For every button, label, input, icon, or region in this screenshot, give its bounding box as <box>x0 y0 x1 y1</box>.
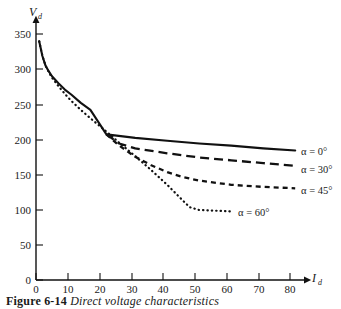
figure-caption: Figure 6-14 Direct voltage characteristi… <box>6 294 219 309</box>
y-tick-label: 250 <box>15 99 32 111</box>
y-tick-label: 50 <box>20 239 32 251</box>
series-line-alpha-45 <box>106 134 295 188</box>
y-axis-title: V d <box>29 5 43 21</box>
series-line-alpha-0 <box>39 41 295 150</box>
legend: α = 0° α = 30° α = 45° α = 60° <box>238 146 332 218</box>
y-axis-title-subscript: d <box>38 12 43 21</box>
y-axis-tick-labels: 0 50 100 150 200 250 300 350 <box>15 28 32 286</box>
axis-lines <box>36 22 305 280</box>
x-axis-title: I d <box>311 271 323 287</box>
x-tick-label: 80 <box>285 283 297 295</box>
y-tick-label: 0 <box>26 274 32 286</box>
x-axis-title-subscript: d <box>318 278 323 287</box>
series-lines <box>39 41 295 211</box>
series-line-alpha-30 <box>106 134 295 166</box>
y-tick-label: 300 <box>15 63 32 75</box>
legend-label-alpha-0: α = 0° <box>301 146 327 157</box>
x-tick-label: 70 <box>254 283 266 295</box>
y-tick-label: 350 <box>15 28 32 40</box>
y-axis-title-text: V <box>29 5 38 19</box>
series-line-alpha-60 <box>39 41 231 211</box>
legend-label-alpha-45: α = 45° <box>301 185 332 196</box>
y-tick-label: 200 <box>15 134 32 146</box>
y-axis-ticks <box>36 34 43 280</box>
figure-caption-rest: Direct voltage characteristics <box>70 294 219 308</box>
legend-label-alpha-30: α = 30° <box>301 164 332 175</box>
x-axis-ticks <box>36 273 290 280</box>
y-tick-label: 100 <box>15 204 32 216</box>
x-tick-label: 60 <box>222 283 234 295</box>
y-tick-label: 150 <box>15 169 32 181</box>
x-axis-title-text: I <box>311 271 317 285</box>
figure-caption-label: Figure 6-14 <box>6 294 67 308</box>
legend-label-alpha-60: α = 60° <box>238 207 269 218</box>
